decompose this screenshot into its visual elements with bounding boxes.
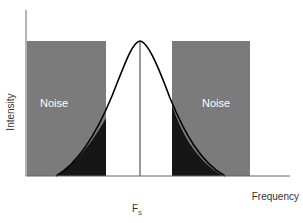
noise-left-label: Noise <box>40 97 68 109</box>
center-label-sub: S <box>138 210 142 216</box>
noise-right-label: Noise <box>202 97 230 109</box>
center-frequency-label: FS <box>132 203 142 216</box>
x-axis-label: Frequency <box>252 191 299 202</box>
diagram-canvas: Noise Noise Intensity Frequency FS <box>0 0 303 223</box>
y-axis-label: Intensity <box>5 93 16 130</box>
